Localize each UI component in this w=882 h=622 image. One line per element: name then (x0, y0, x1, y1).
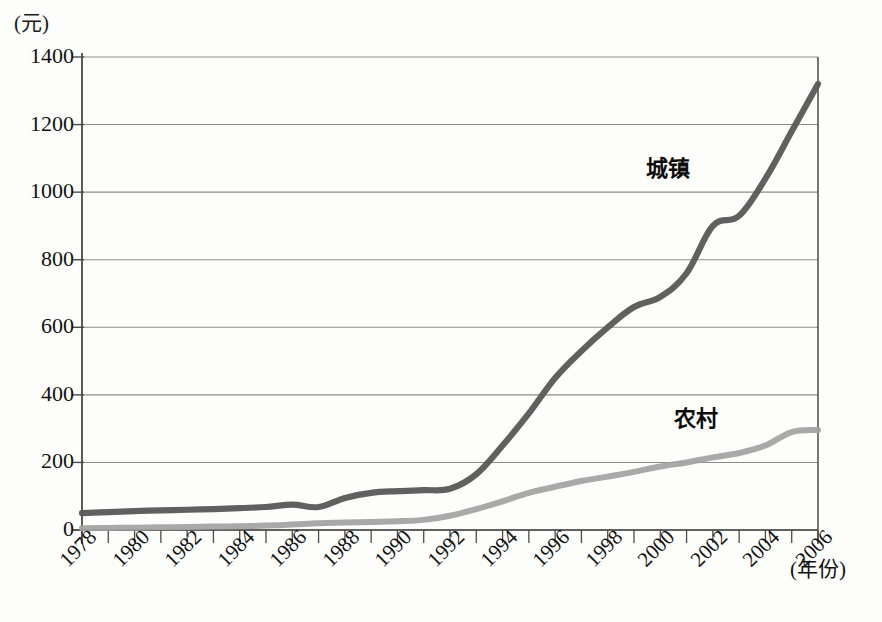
x-tick-label: 1986 (266, 526, 311, 571)
x-tick-label: 2002 (687, 526, 732, 571)
series-label-urban: 城镇 (646, 158, 690, 180)
x-axis-tick-labels: 1978198019821984198619881990199219941996… (0, 0, 882, 622)
x-tick-label: 1980 (109, 526, 154, 571)
series-label-rural: 农村 (674, 408, 718, 430)
x-tick-label: 1998 (582, 526, 627, 571)
x-tick-label: 2000 (634, 526, 679, 571)
x-tick-label: 1994 (477, 526, 522, 571)
chart-figure: (元) 0200400600800100012001400 1978198019… (0, 0, 882, 622)
x-tick-label: 1992 (424, 526, 469, 571)
x-tick-label: 1988 (319, 526, 364, 571)
x-tick-label: 1982 (161, 526, 206, 571)
x-axis-title: (年份) (790, 552, 846, 582)
x-tick-label: 1996 (529, 526, 574, 571)
x-tick-label: 1978 (56, 526, 101, 571)
x-tick-label: 2004 (739, 526, 784, 571)
x-tick-label: 1990 (371, 526, 416, 571)
x-tick-label: 1984 (214, 526, 259, 571)
